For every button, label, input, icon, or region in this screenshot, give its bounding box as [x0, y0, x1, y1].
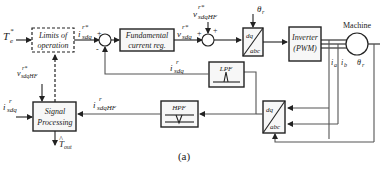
i-sdq-ref-label: i sdq r* +	[78, 23, 102, 41]
svg-text:r*: r*	[82, 23, 89, 31]
svg-text:Signal: Signal	[45, 107, 66, 116]
svg-text:LPF: LPF	[219, 65, 233, 73]
te-ref-signal: T e *	[3, 27, 31, 45]
low-pass-filter-block: LPF	[209, 62, 244, 87]
svg-text:a: a	[334, 62, 337, 68]
ia-label: i a	[331, 58, 337, 68]
svg-text:sdqHF: sdqHF	[97, 104, 117, 112]
svg-text:*: *	[10, 27, 14, 35]
svg-text:(PWM): (PWM)	[293, 44, 317, 53]
svg-text:b: b	[344, 62, 347, 68]
summing-junction-voltage	[202, 34, 214, 46]
svg-text:T: T	[3, 30, 10, 42]
svg-text:Processing: Processing	[36, 118, 72, 127]
svg-text:r: r	[9, 97, 12, 105]
svg-text:sdq: sdq	[7, 106, 17, 114]
svg-text:Inverter: Inverter	[291, 33, 319, 42]
svg-text:dq: dq	[266, 106, 274, 114]
fundamental-current-regulator-block: Fundamental current reg.	[120, 29, 174, 51]
svg-text:i: i	[78, 29, 81, 39]
svg-text:out: out	[64, 144, 72, 150]
svg-text:i: i	[3, 102, 6, 112]
v-hf-left-label: v sdqHF r*	[17, 65, 38, 79]
svg-text:r: r	[362, 62, 365, 68]
svg-text:r: r	[262, 9, 265, 15]
summing-junction-current	[99, 34, 111, 46]
svg-text:HPF: HPF	[171, 104, 186, 112]
svg-text:sdqHF: sdqHF	[21, 73, 38, 79]
theta-r-top-label: θ r	[257, 4, 265, 15]
i-sdq-feedback-label: i sdq r	[170, 58, 184, 75]
ib-label: i b	[341, 58, 347, 68]
svg-text:e: e	[10, 37, 13, 45]
svg-text:i: i	[331, 58, 333, 67]
svg-text:Machine: Machine	[343, 21, 371, 30]
figure-caption: (a)	[178, 150, 191, 163]
svg-text:Fundamental: Fundamental	[125, 31, 169, 40]
svg-text:sdqHF: sdqHF	[198, 13, 218, 21]
svg-text:i: i	[170, 63, 173, 73]
theta-r-right-label: θ r	[357, 58, 365, 68]
t-out-label: ^ T out	[59, 135, 72, 150]
svg-text:current reg.: current reg.	[128, 41, 166, 50]
svg-text:r*: r*	[182, 23, 189, 31]
dq-to-abc-transform-block: dq abc	[243, 28, 263, 56]
limits-of-operation-block: Limits of operation	[32, 28, 74, 52]
svg-text:i: i	[341, 58, 343, 67]
machine: Machine	[343, 21, 371, 55]
svg-text:+: +	[197, 29, 202, 38]
block-diagram: T e * Limits of operation i sdq r* + - F…	[0, 0, 387, 171]
signal-processing-block: Signal Processing	[33, 102, 76, 131]
svg-text:+: +	[213, 26, 218, 35]
svg-text:v: v	[177, 29, 181, 39]
abc-to-dq-transform-block: dq abc	[263, 101, 285, 133]
svg-text:r*: r*	[198, 3, 205, 11]
svg-text:r: r	[99, 95, 102, 103]
svg-text:dq: dq	[246, 32, 254, 40]
high-pass-filter-block: HPF	[161, 101, 198, 127]
svg-text:i: i	[93, 100, 96, 110]
i-hf-label: i sdqHF r	[93, 95, 117, 112]
svg-text:operation: operation	[37, 41, 68, 50]
svg-text:θ: θ	[357, 58, 361, 67]
svg-text:abc: abc	[250, 47, 261, 55]
i-sdq-sp-label: i sdq r	[3, 97, 17, 114]
svg-text:r*: r*	[22, 65, 27, 71]
inverter-pwm-block: Inverter (PWM)	[289, 27, 321, 61]
svg-text:r: r	[176, 58, 179, 66]
svg-text:sdq: sdq	[174, 67, 184, 75]
svg-text:Limits of: Limits of	[38, 31, 69, 40]
v-sdq-ref-label: v sdq r* +	[177, 23, 202, 41]
svg-text:v: v	[193, 9, 197, 19]
svg-text:abc: abc	[270, 123, 281, 131]
svg-text:-: -	[96, 45, 99, 54]
